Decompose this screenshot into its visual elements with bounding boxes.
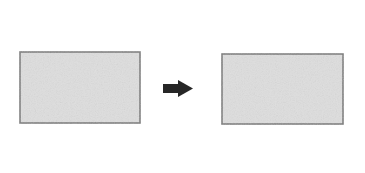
transformation-arrow [163,80,193,97]
diagram-svg [0,0,365,173]
left-figure [20,12,140,160]
arrow-head-icon [178,80,193,97]
right-rectangle [222,54,343,124]
right-figure [222,12,343,160]
diagram-canvas [0,0,365,173]
